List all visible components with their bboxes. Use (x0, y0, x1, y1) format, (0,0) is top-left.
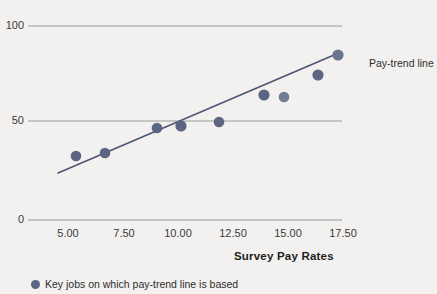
x-tick-label-10: 10.00 (158, 227, 198, 239)
chart-figure: 100 50 0 5.00 7.50 10.00 12.50 15.00 17.… (0, 0, 437, 294)
data-point (71, 151, 82, 162)
plot-area (0, 0, 437, 294)
x-tick-label-5: 5.00 (48, 227, 88, 239)
data-point (100, 148, 111, 159)
data-point (312, 69, 323, 80)
data-point (279, 92, 290, 103)
data-point (214, 117, 225, 128)
data-point (332, 49, 343, 60)
y-tick-label-50: 50 (0, 115, 24, 126)
legend-label: Key jobs on which pay-trend line is base… (45, 279, 238, 290)
y-tick-label-0: 0 (0, 214, 24, 225)
data-points (71, 49, 344, 161)
x-tick-label-17-5: 17.50 (323, 227, 363, 239)
x-axis-title: Survey Pay Rates (234, 250, 334, 262)
circle-marker-icon (31, 280, 40, 289)
x-tick-label-15: 15.00 (268, 227, 308, 239)
data-point (175, 120, 186, 131)
y-tick-label-100: 100 (0, 20, 24, 31)
data-point (258, 89, 269, 100)
pay-trend-line-annotation: Pay-trend line (369, 57, 434, 69)
x-tick-label-12-5: 12.50 (213, 227, 253, 239)
legend: Key jobs on which pay-trend line is base… (31, 279, 238, 290)
x-tick-label-7-5: 7.50 (104, 227, 144, 239)
data-point (152, 123, 163, 134)
plot-svg (0, 0, 437, 294)
